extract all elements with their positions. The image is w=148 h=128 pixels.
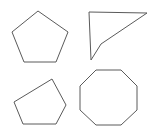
shape-canvas xyxy=(0,0,148,128)
octagon-regular-shape xyxy=(80,70,137,125)
